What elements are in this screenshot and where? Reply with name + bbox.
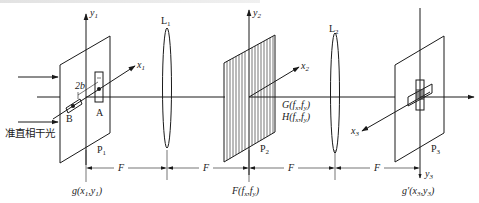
aperture-a-label: A bbox=[96, 107, 104, 118]
point-b-dot bbox=[71, 104, 75, 108]
plane-p1-label: P1 bbox=[97, 144, 107, 157]
input-light-label: 准直相干光 bbox=[5, 127, 56, 139]
plane-p1 bbox=[53, 14, 135, 165]
plane-p2-label: P2 bbox=[260, 143, 270, 156]
x3-axis-label: x3 bbox=[350, 125, 359, 138]
distance-f-1: F bbox=[117, 162, 125, 173]
plane-p3-label: P3 bbox=[431, 143, 441, 156]
point-a-dot bbox=[97, 87, 101, 91]
distance-f-2: F bbox=[202, 162, 210, 173]
separation-label: 2b bbox=[75, 80, 85, 91]
distance-f-3: F bbox=[287, 162, 295, 173]
spectrum-h-label: H(fx,fy) bbox=[281, 111, 311, 124]
lens-l1 bbox=[163, 28, 172, 148]
y2-axis-label: y2 bbox=[252, 7, 261, 20]
x1-axis bbox=[53, 66, 135, 119]
optical-system-diagram: 准直相干光 2b A B y1 x1 P1 L1 bbox=[0, 0, 479, 203]
x2-axis-label: x2 bbox=[300, 60, 309, 73]
y1-axis-label: y1 bbox=[89, 7, 98, 20]
spectrum-function-label: F(fx,fy) bbox=[231, 185, 260, 198]
x2-axis bbox=[249, 67, 299, 97]
input-light-arrows bbox=[18, 77, 58, 122]
aperture-b-label: B bbox=[66, 113, 73, 124]
input-function-label: g(x1,y1) bbox=[72, 185, 103, 198]
x1-axis-label: x1 bbox=[136, 59, 145, 72]
output-function-label: g′(x3,y3) bbox=[402, 185, 435, 198]
y3-axis-label: y3 bbox=[424, 168, 433, 181]
lens-l1-label: L1 bbox=[161, 15, 171, 28]
distance-f-4: F bbox=[373, 162, 381, 173]
lens-l2 bbox=[331, 33, 340, 153]
grating-lines bbox=[227, 36, 273, 160]
distance-dimensions bbox=[86, 150, 420, 182]
